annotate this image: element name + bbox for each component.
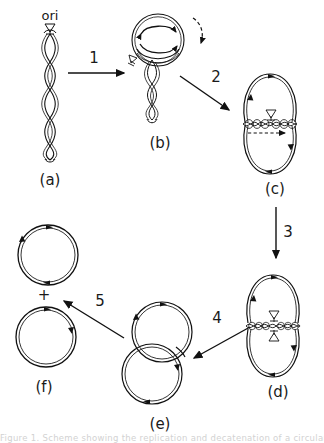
step-label-2: 2 xyxy=(211,68,221,86)
step-label-1: 1 xyxy=(89,49,99,67)
step-label-4: 4 xyxy=(212,309,222,327)
figure-container: ori (a) 1 xyxy=(0,0,324,443)
ori-triangle-marker-d-bottom xyxy=(269,330,279,341)
step-arrow-4 xyxy=(194,327,250,358)
panel-c-structure xyxy=(243,74,297,174)
panel-label-a: (a) xyxy=(40,171,61,189)
panel-e-structure xyxy=(122,302,192,404)
plus-sign-label: + xyxy=(38,286,51,304)
panel-label-d: (d) xyxy=(267,383,288,401)
braid-region-d xyxy=(246,322,300,330)
braid-region-c xyxy=(243,120,297,129)
panel-label-f: (f) xyxy=(36,378,53,396)
ori-triangle-marker-d-top xyxy=(269,311,279,322)
figure-caption: Figure 1. Scheme showing the replication… xyxy=(0,433,324,443)
step-label-5: 5 xyxy=(95,292,105,310)
figure-svg: ori (a) 1 xyxy=(0,0,324,443)
panel-d-structure xyxy=(246,275,300,377)
ori-label: ori xyxy=(42,8,59,23)
step-arrow-2 xyxy=(180,76,229,110)
panel-a-structure xyxy=(42,30,59,162)
panel-label-b: (b) xyxy=(149,134,170,152)
ori-triangle-marker-b xyxy=(128,55,137,66)
panel-label-e: (e) xyxy=(150,415,171,433)
ori-triangle-marker-c xyxy=(266,110,276,121)
panel-label-c: (c) xyxy=(265,180,285,198)
step-label-3: 3 xyxy=(283,223,293,241)
panel-b-structure xyxy=(132,14,202,123)
